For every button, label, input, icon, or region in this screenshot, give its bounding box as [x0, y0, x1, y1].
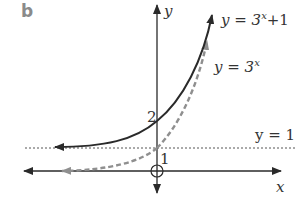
curve-shifted: [55, 121, 157, 147]
tick-label-2: 2: [147, 110, 157, 125]
graph-canvas: [0, 0, 299, 202]
tick-label-1: 1: [160, 152, 170, 167]
curve-label-base-prefix: y = 3: [214, 58, 254, 76]
curve-base: [62, 148, 157, 171]
curve-shifted: [157, 15, 212, 121]
curve-label-base: y = 3x: [214, 58, 260, 75]
asymptote-label: y = 1: [255, 128, 295, 143]
curve-label-base-exp: x: [254, 57, 260, 68]
curve-label-shifted-suffix: +1: [267, 11, 289, 29]
curve-label-shifted: y = 3x+1: [221, 11, 289, 28]
y-axis-label: y: [164, 4, 172, 19]
curve-label-shifted-prefix: y = 3: [221, 11, 261, 29]
x-axis-label: x: [276, 180, 284, 195]
